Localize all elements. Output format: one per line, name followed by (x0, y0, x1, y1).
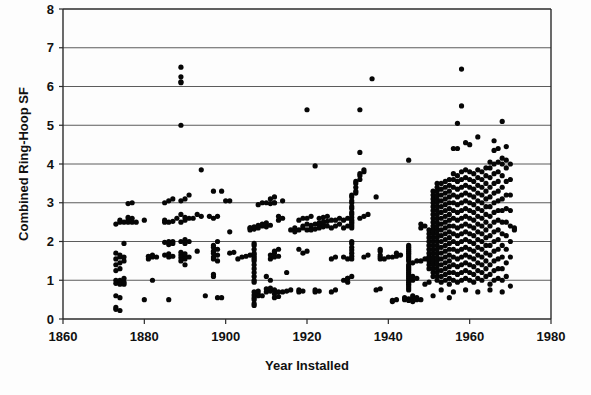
data-point (182, 196, 187, 201)
data-point (276, 247, 281, 252)
data-point (479, 216, 484, 221)
data-point (504, 274, 509, 279)
data-point (178, 250, 183, 255)
data-point (483, 220, 488, 225)
data-point (113, 293, 118, 298)
y-axis-title: Combined Ring-Hoop SF (16, 87, 31, 241)
data-point (418, 221, 423, 226)
data-point (487, 165, 492, 170)
x-tick-label-1900: 1900 (211, 329, 240, 344)
data-point (475, 134, 480, 139)
data-point (479, 208, 484, 213)
x-axis-ticks (63, 319, 551, 324)
data-point (500, 243, 505, 248)
data-point (451, 289, 456, 294)
data-point (483, 189, 488, 194)
data-point (471, 210, 476, 215)
data-point (280, 198, 285, 203)
data-point (455, 173, 460, 178)
data-point (471, 264, 476, 269)
data-point (182, 237, 187, 242)
data-point (479, 239, 484, 244)
data-point (406, 158, 411, 163)
x-tick-label-1980: 1980 (537, 329, 566, 344)
data-point (170, 239, 175, 244)
data-point (508, 192, 513, 197)
data-point (487, 252, 492, 257)
data-point (447, 235, 452, 240)
data-point (496, 169, 501, 174)
data-point (483, 266, 488, 271)
data-point (215, 239, 220, 244)
data-point (451, 146, 456, 151)
data-point (504, 260, 509, 265)
y-tick-label-6: 6 (47, 79, 54, 94)
data-point (487, 185, 492, 190)
data-point (215, 214, 220, 219)
data-point (178, 79, 183, 84)
data-point (219, 295, 224, 300)
data-point (479, 270, 484, 275)
data-point (256, 289, 261, 294)
x-tick-label-1960: 1960 (455, 329, 484, 344)
data-point (479, 254, 484, 259)
data-point (487, 262, 492, 267)
data-point (471, 218, 476, 223)
data-point (483, 227, 488, 232)
data-point (357, 150, 362, 155)
data-point (272, 200, 277, 205)
data-point (491, 138, 496, 143)
data-point (483, 258, 488, 263)
scatter-plot: 012345678 1860188019001920194019601980 Y… (0, 0, 591, 395)
data-point (203, 293, 208, 298)
data-point (296, 287, 301, 292)
data-point (211, 272, 216, 277)
data-point (227, 198, 232, 203)
y-tick-label-8: 8 (47, 2, 54, 17)
data-point (117, 308, 122, 313)
data-point (337, 221, 342, 226)
y-tick-label-3: 3 (47, 195, 54, 210)
data-point (191, 216, 196, 221)
y-tick-label-5: 5 (47, 118, 54, 133)
data-point (313, 163, 318, 168)
data-point (496, 227, 501, 232)
data-point (219, 189, 224, 194)
data-point (211, 189, 216, 194)
data-point (463, 287, 468, 292)
data-point (508, 283, 513, 288)
data-point (479, 262, 484, 267)
data-point (113, 251, 118, 256)
data-point (121, 241, 126, 246)
data-point (471, 272, 476, 277)
data-point (349, 274, 354, 279)
data-point (459, 66, 464, 71)
data-point (455, 121, 460, 126)
data-point (125, 215, 130, 220)
data-point (471, 194, 476, 199)
data-point (365, 212, 370, 217)
data-point (264, 274, 269, 279)
data-point (459, 103, 464, 108)
data-point (268, 223, 273, 228)
data-point (272, 194, 277, 199)
data-point (296, 247, 301, 252)
data-point (276, 214, 281, 219)
data-point (479, 192, 484, 197)
data-point (487, 175, 492, 180)
x-tick-label-1860: 1860 (49, 329, 78, 344)
data-point (130, 200, 135, 205)
data-point (487, 204, 492, 209)
data-point (447, 295, 452, 300)
data-points-group (113, 65, 517, 314)
data-point (345, 280, 350, 285)
data-point (479, 200, 484, 205)
x-tick-label-1920: 1920 (293, 329, 322, 344)
x-tick-label-1880: 1880 (130, 329, 159, 344)
data-point (487, 282, 492, 287)
data-point (349, 239, 354, 244)
data-point (369, 76, 374, 81)
data-point (378, 247, 383, 252)
data-point (439, 287, 444, 292)
y-axis-tick-labels: 012345678 (47, 2, 55, 327)
